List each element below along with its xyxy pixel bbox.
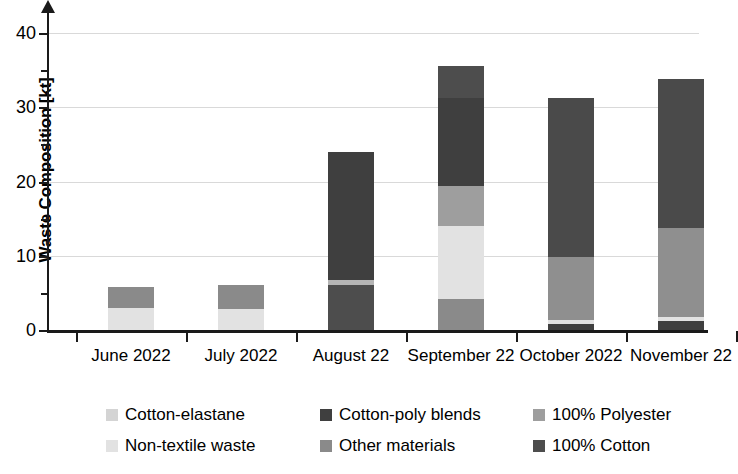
x-axis-tick-label: October 2022: [516, 345, 626, 366]
bar-segment: [108, 308, 154, 330]
legend-label: Other materials: [339, 436, 455, 456]
bar-stack: [328, 152, 374, 330]
bar-segment: [218, 285, 264, 309]
legend-item[interactable]: Cotton-elastane: [106, 405, 245, 425]
bar-segment: [548, 257, 594, 320]
legend-swatch-icon: [106, 440, 118, 452]
legend-swatch-icon: [106, 409, 118, 421]
chart-legend: Cotton-elastaneCotton-poly blends100% Po…: [0, 405, 719, 471]
bar-segment: [658, 317, 704, 321]
x-axis-tick-labels: June 2022July 2022August 22September 22O…: [0, 345, 719, 401]
bar-series-group: [0, 0, 719, 333]
legend-item[interactable]: 100% Polyester: [533, 405, 671, 425]
legend-label: Non-textile waste: [125, 436, 255, 456]
legend-swatch-icon: [533, 409, 545, 421]
bar-segment: [548, 98, 594, 257]
bar-segment: [548, 320, 594, 324]
x-axis-tick-label: September 22: [406, 345, 516, 366]
bar-stack: [218, 285, 264, 330]
bar-segment: [438, 186, 484, 226]
legend-label: 100% Cotton: [552, 436, 650, 456]
bar-segment: [328, 280, 374, 284]
bar-segment: [548, 324, 594, 330]
bar-segment: [438, 98, 484, 186]
legend-swatch-icon: [320, 409, 332, 421]
bar-segment: [658, 228, 704, 318]
x-axis-tick-label: July 2022: [186, 345, 296, 366]
x-axis-tick-label: August 22: [296, 345, 406, 366]
legend-swatch-icon: [533, 440, 545, 452]
bar-segment: [108, 287, 154, 309]
legend-label: Cotton-poly blends: [339, 405, 481, 425]
legend-item[interactable]: 100% Cotton: [533, 436, 650, 456]
legend-label: 100% Polyester: [552, 405, 671, 425]
legend-label: Cotton-elastane: [125, 405, 245, 425]
bar-segment: [328, 285, 374, 330]
legend-item[interactable]: Cotton-poly blends: [320, 405, 481, 425]
bar-segment: [438, 226, 484, 299]
bar-stack: [658, 79, 704, 330]
bar-stack: [108, 287, 154, 330]
bar-segment: [438, 299, 484, 330]
legend-item[interactable]: Non-textile waste: [106, 436, 255, 456]
bar-stack: [548, 98, 594, 330]
x-axis-tick-label: June 2022: [76, 345, 186, 366]
bar-stack: [438, 66, 484, 330]
x-axis-tick-label: November 22: [626, 345, 736, 366]
legend-swatch-icon: [320, 440, 332, 452]
bar-segment: [218, 309, 264, 330]
bar-segment: [438, 66, 484, 98]
legend-item[interactable]: Other materials: [320, 436, 455, 456]
bar-segment: [658, 321, 704, 330]
bar-segment: [658, 79, 704, 228]
bar-segment: [328, 152, 374, 280]
